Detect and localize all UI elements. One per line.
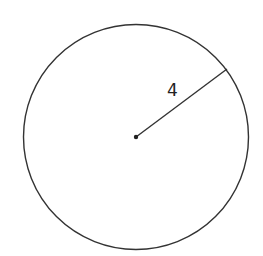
radius-line [136, 69, 227, 137]
center-point [134, 135, 138, 139]
circle-diagram: 4 [0, 0, 263, 256]
radius-label: 4 [167, 80, 178, 100]
